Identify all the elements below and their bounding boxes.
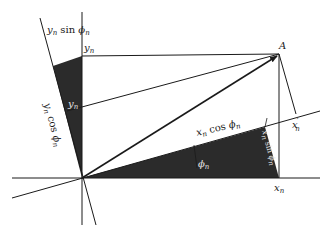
label-yn-cos-phin: yn cos ϕn	[40, 101, 64, 149]
A-to-xprime-line	[279, 54, 296, 114]
label-yn: yn	[83, 42, 95, 55]
label-yn-sin-phin: yn sin ϕn	[46, 24, 90, 37]
label-xn: xn	[274, 182, 285, 195]
rotation-diagram: A yn sin ϕn yn yn cos ϕn yn xn cos ϕn ϕn…	[0, 0, 328, 234]
label-xprime-n: x′n	[292, 117, 300, 133]
yn-to-A-line	[82, 54, 279, 56]
label-A: A	[278, 40, 286, 51]
yprime-to-A-line	[67, 54, 279, 111]
